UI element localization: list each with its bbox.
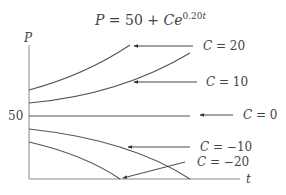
formula-title: P = 50 + Ce0.20t <box>94 11 207 28</box>
label-c-20: C = 20 <box>203 39 245 53</box>
solution-curves-diagram: P = 50 + Ce0.20t P t 50 C = 20 C = 10 C … <box>0 0 286 195</box>
curve-c-20 <box>29 45 130 90</box>
y-axis-label: P <box>23 31 33 45</box>
label-c-0: C = 0 <box>243 108 278 122</box>
label-c-neg10: C = −10 <box>200 140 252 154</box>
x-axis-label: t <box>246 172 251 186</box>
label-c-neg20: C = −20 <box>197 155 249 169</box>
curve-c-10 <box>29 53 190 103</box>
curve-c-neg10 <box>29 129 190 179</box>
label-c-10: C = 10 <box>206 75 248 89</box>
y-tick-50: 50 <box>8 109 23 123</box>
curve-c-neg20 <box>29 142 120 179</box>
